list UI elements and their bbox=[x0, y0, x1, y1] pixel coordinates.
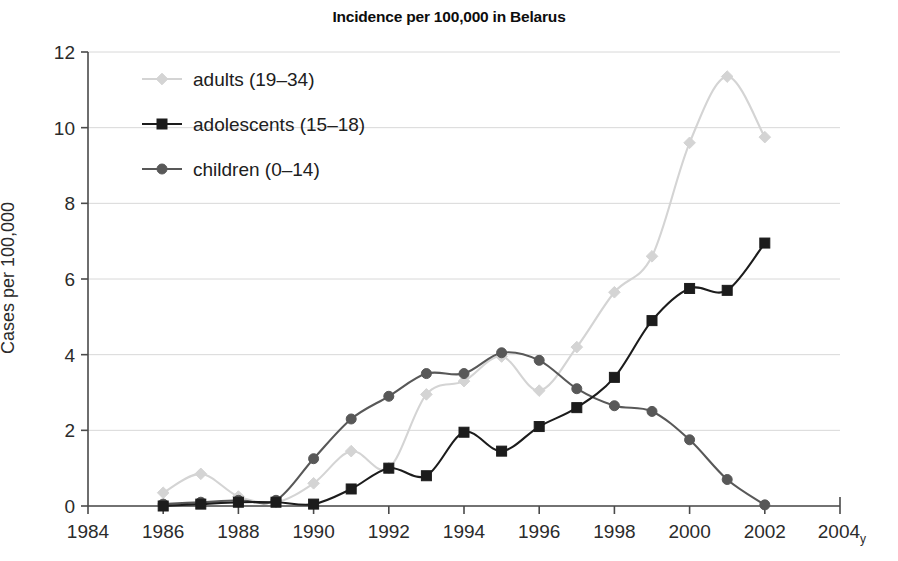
y-tick-label: 10 bbox=[20, 118, 75, 137]
x-tick-label: 1992 bbox=[368, 522, 410, 541]
data-point-marker bbox=[421, 369, 431, 379]
data-point-marker bbox=[309, 454, 319, 464]
x-tick-label: 2004y bbox=[818, 522, 866, 545]
data-point-marker bbox=[196, 499, 206, 509]
y-tick-label: 0 bbox=[20, 497, 75, 516]
data-point-marker bbox=[572, 384, 582, 394]
data-point-marker bbox=[759, 131, 771, 143]
y-tick-label: 12 bbox=[20, 43, 75, 62]
x-tick-label: 2002 bbox=[744, 522, 786, 541]
data-point-marker bbox=[158, 501, 168, 511]
legend-entry-adolescents-15-18-[interactable]: adolescents (15–18) bbox=[140, 113, 365, 135]
legend-label: children (0–14) bbox=[193, 160, 320, 179]
data-point-marker bbox=[647, 316, 657, 326]
data-point-marker bbox=[346, 414, 356, 424]
legend-label: adolescents (15–18) bbox=[193, 115, 365, 134]
x-tick-label: 1994 bbox=[443, 522, 485, 541]
data-point-marker bbox=[722, 285, 732, 295]
data-point-marker bbox=[309, 499, 319, 509]
y-tick-label: 2 bbox=[20, 421, 75, 440]
data-point-marker bbox=[195, 468, 207, 480]
x-axis-unit: y bbox=[860, 532, 866, 546]
x-tick-label: 1990 bbox=[292, 522, 334, 541]
data-point-marker bbox=[384, 463, 394, 473]
data-point-marker bbox=[156, 73, 168, 85]
legend-entry-adults-19-34-[interactable]: adults (19–34) bbox=[140, 68, 365, 90]
x-tick-label: 2000 bbox=[668, 522, 710, 541]
x-tick-label: 1998 bbox=[593, 522, 635, 541]
data-point-marker bbox=[684, 137, 696, 149]
data-point-marker bbox=[721, 71, 733, 83]
x-tick-label: 1984 bbox=[67, 522, 109, 541]
data-point-marker bbox=[722, 475, 732, 485]
data-point-marker bbox=[157, 164, 167, 174]
data-point-marker bbox=[384, 391, 394, 401]
y-tick-label: 6 bbox=[20, 270, 75, 289]
legend-label: adults (19–34) bbox=[193, 70, 314, 89]
data-point-marker bbox=[760, 238, 770, 248]
legend-swatch-diamond-icon bbox=[140, 69, 184, 89]
data-point-marker bbox=[646, 251, 658, 263]
data-point-marker bbox=[572, 403, 582, 413]
data-point-marker bbox=[760, 500, 770, 510]
data-point-marker bbox=[459, 369, 469, 379]
data-point-marker bbox=[609, 401, 619, 411]
data-point-marker bbox=[497, 348, 507, 358]
y-tick-label: 4 bbox=[20, 345, 75, 364]
legend-entry-children-0-14-[interactable]: children (0–14) bbox=[140, 158, 365, 180]
data-point-marker bbox=[647, 406, 657, 416]
data-point-marker bbox=[685, 435, 695, 445]
data-point-marker bbox=[497, 446, 507, 456]
x-tick-label: 1988 bbox=[217, 522, 259, 541]
data-point-marker bbox=[609, 372, 619, 382]
data-point-marker bbox=[534, 355, 544, 365]
x-tick-label: 1986 bbox=[142, 522, 184, 541]
data-point-marker bbox=[346, 484, 356, 494]
data-point-marker bbox=[271, 497, 281, 507]
y-tick-label: 8 bbox=[20, 194, 75, 213]
data-point-marker bbox=[157, 487, 169, 499]
data-point-marker bbox=[233, 497, 243, 507]
data-point-marker bbox=[533, 385, 545, 397]
data-point-marker bbox=[534, 422, 544, 432]
data-point-marker bbox=[421, 471, 431, 481]
chart-legend: adults (19–34)adolescents (15–18)childre… bbox=[140, 68, 365, 180]
chart-figure: Incidence per 100,000 in Belarus Cases p… bbox=[0, 0, 898, 561]
legend-swatch-square-icon bbox=[140, 114, 184, 134]
plot-area bbox=[0, 0, 898, 561]
legend-swatch-circle-icon bbox=[140, 159, 184, 179]
data-point-marker bbox=[459, 427, 469, 437]
x-tick-label: 1996 bbox=[518, 522, 560, 541]
data-point-marker bbox=[157, 119, 167, 129]
data-point-marker bbox=[685, 283, 695, 293]
data-point-marker bbox=[345, 445, 357, 457]
